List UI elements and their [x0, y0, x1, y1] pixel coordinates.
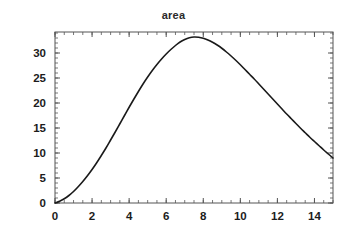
chart-figure: area 02468101214 051015202530 [0, 0, 347, 237]
y-axis-tick-labels: 051015202530 [33, 47, 46, 209]
plot-frame-rect [55, 32, 333, 203]
x-tick-label: 10 [234, 210, 247, 222]
plot-frame [55, 32, 333, 203]
x-tick-label: 14 [308, 210, 321, 222]
x-tick-label: 4 [126, 210, 133, 222]
x-tick-label: 0 [52, 210, 58, 222]
x-tick-label: 12 [271, 210, 284, 222]
y-tick-label: 25 [33, 72, 46, 84]
y-tick-label: 5 [40, 172, 47, 184]
y-tick-label: 20 [33, 97, 46, 109]
x-axis-tick-labels: 02468101214 [52, 210, 322, 222]
x-tick-label: 2 [89, 210, 95, 222]
plot-area: 02468101214 051015202530 [0, 0, 347, 237]
y-tick-label: 15 [33, 122, 46, 134]
x-tick-label: 8 [200, 210, 207, 222]
y-tick-label: 0 [40, 197, 46, 209]
y-tick-label: 10 [33, 147, 46, 159]
y-tick-label: 30 [33, 47, 46, 59]
x-tick-label: 6 [163, 210, 169, 222]
